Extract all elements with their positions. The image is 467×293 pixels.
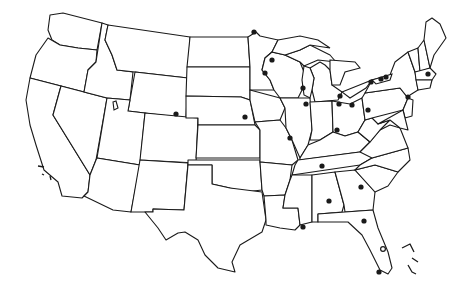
city-marker-orlando — [381, 247, 386, 252]
city-marker-milwaukee — [300, 85, 305, 90]
city-marker-toledo — [336, 101, 341, 106]
state-outlines — [26, 13, 446, 274]
us-map — [0, 0, 467, 293]
city-marker-nashville — [319, 163, 324, 168]
city-marker-detroit — [337, 93, 342, 98]
us-map-svg — [0, 0, 467, 293]
city-marker-syracuse — [383, 74, 388, 79]
city-marker-omaha — [242, 114, 247, 119]
city-marker-buffalo — [368, 79, 373, 84]
city-marker-denver — [173, 111, 178, 116]
city-marker-jacksonville — [361, 218, 366, 223]
state-connecticut-ri — [416, 80, 432, 90]
city-marker-green-bay — [269, 57, 274, 62]
city-marker-st-louis — [287, 135, 292, 140]
city-marker-miami — [376, 269, 381, 274]
city-marker-mobile — [300, 224, 305, 229]
city-marker-chicago — [303, 101, 308, 106]
state-new-mexico — [131, 160, 188, 212]
city-marker-new-york — [405, 94, 410, 99]
state-kansas — [196, 125, 260, 158]
bahamas-outline — [402, 244, 418, 274]
city-marker-cincinnati — [334, 127, 339, 132]
city-marker-birmingham — [326, 198, 331, 203]
city-marker-atlanta — [358, 184, 363, 189]
state-montana — [105, 25, 190, 78]
city-marker-rochester — [378, 76, 383, 81]
state-wyoming — [128, 72, 188, 118]
state-south-dakota — [186, 67, 250, 100]
city-marker-minneapolis — [262, 70, 267, 75]
state-north-dakota — [187, 37, 250, 67]
lake-huron — [330, 60, 360, 85]
state-colorado — [140, 113, 198, 163]
city-marker-pittsburgh — [365, 107, 370, 112]
city-marker-boston — [425, 71, 430, 76]
city-marker-duluth — [251, 29, 256, 34]
state-florida — [318, 210, 392, 274]
city-marker-cleveland — [349, 102, 354, 107]
